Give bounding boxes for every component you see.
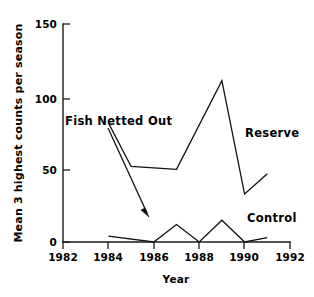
x-tick-label-1984: 1984 [93, 251, 123, 263]
y-tick-label-100: 100 [35, 93, 57, 105]
y-tick-label-0: 0 [50, 236, 57, 248]
fish-netted-out-annotation: Fish Netted Out [65, 114, 172, 217]
x-tick-label-1988: 1988 [184, 251, 214, 263]
fish-netted-out-label: Fish Netted Out [65, 114, 172, 128]
y-tick-label-150: 150 [35, 18, 57, 30]
line-chart-canvas: 150 100 50 0 1982 1984 1986 1988 1990 19… [0, 0, 314, 297]
x-tick-label-1990: 1990 [229, 251, 259, 263]
control-series-label: Control [247, 211, 297, 225]
x-axis-title: Year [162, 273, 190, 285]
x-tick-label-1982: 1982 [48, 251, 78, 263]
x-tick-marks [63, 242, 290, 249]
reserve-series-label: Reserve [245, 126, 299, 140]
x-tick-label-1986: 1986 [139, 251, 169, 263]
y-tick-label-50: 50 [42, 164, 57, 176]
fish-netted-out-arrow-head [141, 208, 149, 217]
x-tick-labels: 1982 1984 1986 1988 1990 1992 [48, 251, 305, 263]
y-tick-labels: 150 100 50 0 [35, 18, 57, 248]
y-tick-marks [63, 24, 70, 242]
series-line-control [108, 220, 267, 242]
chart-figure: 150 100 50 0 1982 1984 1986 1988 1990 19… [0, 0, 314, 297]
x-tick-label-1992: 1992 [275, 251, 305, 263]
y-axis-title: Mean 3 highest counts per season [12, 23, 25, 242]
series-line-reserve [108, 81, 267, 194]
fish-netted-out-arrow-shaft [108, 128, 147, 213]
